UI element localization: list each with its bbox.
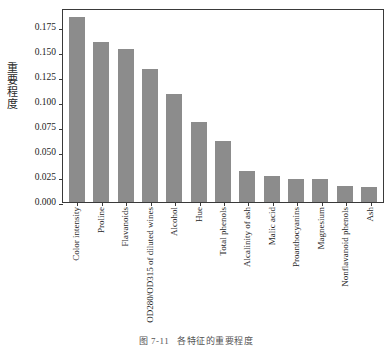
y-axis-tick-label: 0.075 bbox=[35, 123, 56, 133]
bar bbox=[361, 187, 377, 202]
bar-slot bbox=[187, 10, 211, 202]
x-axis-tick-label: Proline bbox=[96, 207, 105, 233]
y-axis-tick-label: 0.175 bbox=[35, 23, 56, 33]
x-axis-tick-label: Total phenols bbox=[219, 207, 228, 256]
bar-slot bbox=[284, 10, 308, 202]
bar-slot bbox=[357, 10, 381, 202]
y-axis-title: 重要程度 bbox=[2, 62, 18, 152]
bar bbox=[239, 171, 255, 202]
y-axis-tick-mark bbox=[59, 29, 63, 30]
y-axis-tick-mark bbox=[59, 104, 63, 105]
bar bbox=[69, 17, 85, 202]
bar bbox=[264, 176, 280, 202]
bar-slot bbox=[235, 10, 259, 202]
x-axis-tick-label: Hue bbox=[194, 207, 203, 222]
bar-series bbox=[63, 10, 383, 202]
bar bbox=[215, 141, 231, 202]
bar-slot bbox=[308, 10, 332, 202]
y-axis-tick-mark bbox=[59, 179, 63, 180]
bar-slot bbox=[332, 10, 356, 202]
x-axis-tick-label: Magnesium bbox=[316, 207, 325, 250]
caption-text: 各特征的重要程度 bbox=[177, 336, 253, 346]
y-axis-tick-label: 0.100 bbox=[35, 98, 56, 108]
figure-container: 重要程度 0.0000.0250.0500.0750.1000.1250.150… bbox=[0, 0, 392, 352]
x-axis-tick-labels: Color intensityProlineFlavanoidsOD280/OD… bbox=[62, 205, 384, 330]
x-axis-tick-label: OD280/OD315 of diluted wines bbox=[145, 207, 154, 323]
bar-slot bbox=[65, 10, 89, 202]
x-axis-tick-label: Alcalinity of ash bbox=[243, 207, 252, 267]
y-axis-tick-label: 0.150 bbox=[35, 48, 56, 58]
bar bbox=[166, 94, 182, 202]
y-axis-tick-labels: 0.0000.0250.0500.0750.1000.1250.1500.175 bbox=[18, 0, 60, 210]
y-axis-tick-mark bbox=[59, 54, 63, 55]
caption-number: 图 7-11 bbox=[139, 336, 169, 346]
bar-slot bbox=[138, 10, 162, 202]
y-axis-tick-mark bbox=[59, 154, 63, 155]
bar bbox=[312, 179, 328, 202]
x-axis-tick-label: Proanthocyanins bbox=[292, 207, 301, 267]
bar-slot bbox=[114, 10, 138, 202]
x-axis-tick-label: Ash bbox=[365, 207, 374, 222]
y-axis-tick-mark bbox=[59, 129, 63, 130]
plot-area bbox=[62, 9, 384, 203]
bar bbox=[142, 69, 158, 202]
y-axis-tick-label: 0.000 bbox=[35, 198, 56, 208]
bar-slot bbox=[162, 10, 186, 202]
x-axis-tick-label: Color intensity bbox=[72, 207, 81, 261]
x-axis-tick-label: Nonflavanoid phenols bbox=[341, 207, 350, 287]
bar-slot bbox=[89, 10, 113, 202]
y-axis-tick-label: 0.050 bbox=[35, 148, 56, 158]
x-axis-tick-label: Malic acid bbox=[267, 207, 276, 245]
bar bbox=[191, 122, 207, 202]
y-axis-tick-mark bbox=[59, 79, 63, 80]
y-axis-tick-label: 0.125 bbox=[35, 73, 56, 83]
x-axis-tick-label: Flavanoids bbox=[121, 207, 130, 247]
bar bbox=[93, 42, 109, 202]
x-axis-tick-label: Alcohol bbox=[170, 207, 179, 236]
bar-slot bbox=[260, 10, 284, 202]
bar-slot bbox=[211, 10, 235, 202]
bar bbox=[337, 186, 353, 202]
y-axis-tick-label: 0.025 bbox=[35, 173, 56, 183]
figure-caption: 图 7-11各特征的重要程度 bbox=[0, 336, 392, 347]
bar bbox=[118, 49, 134, 202]
bar bbox=[288, 179, 304, 202]
